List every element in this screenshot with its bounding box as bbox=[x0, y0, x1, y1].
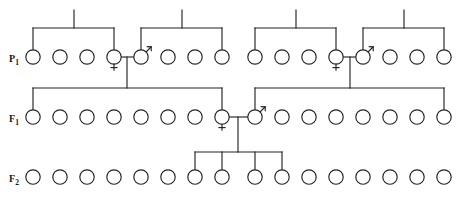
individual-f2-16 bbox=[437, 170, 451, 184]
individual-p1-15 bbox=[410, 50, 424, 64]
individual-f2-8 bbox=[215, 170, 229, 184]
individual-f2-3 bbox=[80, 170, 94, 184]
individual-f2-13 bbox=[356, 170, 370, 184]
generation-label-p1: P1 bbox=[9, 53, 19, 67]
individual-f1-7 bbox=[188, 110, 202, 124]
generation-label-subscript: 1 bbox=[15, 58, 19, 67]
individual-f1-2 bbox=[53, 110, 67, 124]
individual-p1-9 bbox=[248, 50, 262, 64]
individual-f2-6 bbox=[161, 170, 175, 184]
generation-label-f1: F1 bbox=[9, 113, 19, 127]
pedigree-diagram: P1F1F2 bbox=[0, 0, 461, 201]
individual-f2-7 bbox=[188, 170, 202, 184]
individual-f1-10 bbox=[275, 110, 289, 124]
individual-f2-1 bbox=[26, 170, 40, 184]
individual-f1-13 bbox=[356, 110, 370, 124]
female-sign-icon bbox=[111, 64, 117, 70]
individual-f2-12 bbox=[329, 170, 343, 184]
individual-f1-8-female bbox=[215, 110, 229, 124]
individual-f2-10 bbox=[275, 170, 289, 184]
individual-p1-16 bbox=[437, 50, 451, 64]
male-sign-icon bbox=[146, 47, 151, 52]
male-sign-icon bbox=[260, 107, 265, 112]
individual-f1-12 bbox=[329, 110, 343, 124]
generation-label-f2: F2 bbox=[9, 173, 19, 187]
individual-f2-14 bbox=[383, 170, 397, 184]
male-arrow-shaft bbox=[368, 47, 373, 52]
generation-labels: P1F1F2 bbox=[9, 53, 19, 187]
individual-p1-1 bbox=[26, 50, 40, 64]
individual-f1-11 bbox=[302, 110, 316, 124]
male-arrow-shaft bbox=[260, 107, 265, 112]
individual-symbols bbox=[26, 47, 451, 184]
individual-p1-4-female bbox=[107, 50, 121, 64]
individual-f1-14 bbox=[383, 110, 397, 124]
individual-p1-2 bbox=[53, 50, 67, 64]
individual-f1-3 bbox=[80, 110, 94, 124]
individual-p1-6 bbox=[161, 50, 175, 64]
individual-f1-5 bbox=[134, 110, 148, 124]
generation-label-subscript: 2 bbox=[15, 178, 19, 187]
individual-f1-1 bbox=[26, 110, 40, 124]
generation-label-subscript: 1 bbox=[15, 118, 19, 127]
individual-p1-7 bbox=[188, 50, 202, 64]
female-sign-icon bbox=[333, 64, 339, 70]
pedigree-canvas: P1F1F2 bbox=[0, 0, 461, 201]
individual-f1-15 bbox=[410, 110, 424, 124]
male-arrow-shaft bbox=[146, 47, 151, 52]
individual-p1-8 bbox=[215, 50, 229, 64]
individual-p1-11 bbox=[302, 50, 316, 64]
individual-f2-5 bbox=[134, 170, 148, 184]
individual-p1-12-female bbox=[329, 50, 343, 64]
individual-f1-16 bbox=[437, 110, 451, 124]
individual-p1-14 bbox=[383, 50, 397, 64]
individual-f2-9 bbox=[248, 170, 262, 184]
individual-p1-3 bbox=[80, 50, 94, 64]
individual-f2-2 bbox=[53, 170, 67, 184]
female-sign-icon bbox=[219, 124, 225, 130]
individual-f1-4 bbox=[107, 110, 121, 124]
individual-f2-4 bbox=[107, 170, 121, 184]
connector-lines bbox=[33, 10, 444, 170]
male-sign-icon bbox=[368, 47, 373, 52]
individual-f2-11 bbox=[302, 170, 316, 184]
individual-f2-15 bbox=[410, 170, 424, 184]
individual-p1-10 bbox=[275, 50, 289, 64]
individual-f1-6 bbox=[161, 110, 175, 124]
